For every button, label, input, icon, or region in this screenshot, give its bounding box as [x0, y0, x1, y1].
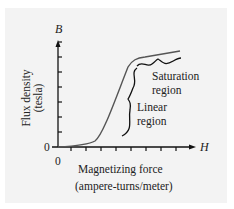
- x-axis-unit: (ampere-turns/meter): [75, 180, 173, 193]
- x-axis-symbol: H: [199, 140, 210, 154]
- y-axis-arrow-icon: [56, 40, 61, 47]
- saturation-brace: [137, 58, 181, 66]
- linear-label-line2: region: [137, 115, 167, 128]
- y-origin-label: 0: [44, 141, 50, 153]
- saturation-label-line2: region: [152, 84, 182, 97]
- x-axis-title: Magnetizing force: [78, 163, 163, 176]
- saturation-label-line1: Saturation: [152, 70, 200, 82]
- x-origin-label: 0: [55, 155, 61, 167]
- y-axis-unit: (tesla): [32, 83, 45, 112]
- linear-label-line1: Linear: [137, 101, 167, 113]
- y-axis-symbol: B: [55, 22, 63, 36]
- x-axis-arrow-icon: [189, 145, 196, 150]
- bh-curve-chart: B H Flux density (tesla) 0 0 Magnetizing…: [0, 0, 234, 209]
- bh-curve-line: [58, 51, 180, 147]
